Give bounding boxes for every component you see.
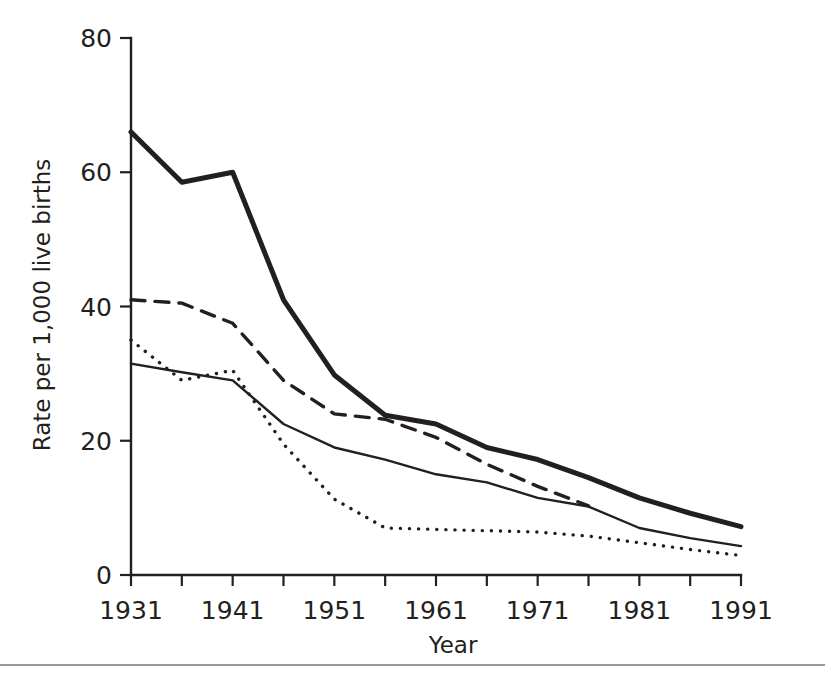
- y-axis-title: Rate per 1,000 live births: [29, 159, 55, 452]
- y-tick-label: 40: [80, 293, 112, 322]
- y-axis-tick-labels: 020406080: [80, 24, 112, 590]
- x-tick-label: 1991: [709, 596, 773, 625]
- x-tick-label: 1971: [506, 596, 570, 625]
- x-axis-title: Year: [428, 632, 478, 658]
- y-axis-ticks: [120, 38, 131, 575]
- x-tick-label: 1981: [608, 596, 672, 625]
- y-tick-label: 60: [80, 158, 112, 187]
- x-tick-label: 1961: [404, 596, 468, 625]
- series-group: [131, 132, 741, 556]
- y-tick-label: 80: [80, 24, 112, 53]
- y-tick-label: 0: [96, 561, 112, 590]
- y-tick-label: 20: [80, 427, 112, 456]
- x-axis-ticks: [131, 575, 741, 586]
- x-tick-label: 1941: [201, 596, 265, 625]
- x-tick-label: 1951: [303, 596, 367, 625]
- thin-solid-series: [131, 364, 741, 547]
- line-chart: 020406080 1931194119511961197119811991 Y…: [0, 0, 825, 673]
- dotted-series: [131, 340, 741, 555]
- x-axis-tick-labels: 1931194119511961197119811991: [99, 596, 773, 625]
- dashed-series: [131, 300, 589, 506]
- thick-solid-series: [131, 132, 741, 527]
- figure-panel: 020406080 1931194119511961197119811991 Y…: [0, 0, 825, 673]
- x-tick-label: 1931: [99, 596, 163, 625]
